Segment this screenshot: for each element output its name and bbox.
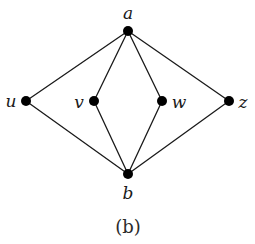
- figure-caption: (b): [115, 216, 141, 237]
- vertex-label-a: a: [123, 5, 133, 22]
- graph-figure: auvwzb (b): [0, 0, 255, 244]
- graph-vertex-a: [123, 26, 133, 36]
- vertex-label-b: b: [123, 185, 134, 202]
- graph-edge-w-b: [128, 101, 162, 174]
- graph-vertex-u: [21, 96, 31, 106]
- vertex-label-w: w: [172, 94, 187, 111]
- graph-edge-a-v: [94, 31, 128, 101]
- vertex-label-v: v: [74, 94, 84, 111]
- vertex-label-u: u: [6, 93, 17, 110]
- graph-edge-a-z: [128, 31, 229, 101]
- graph-edge-v-b: [94, 101, 128, 174]
- graph-vertex-b: [123, 169, 133, 179]
- graph-edge-a-w: [128, 31, 162, 101]
- graph-edge-z-b: [128, 101, 229, 174]
- vertex-layer: [21, 26, 234, 179]
- graph-vertex-z: [224, 96, 234, 106]
- edge-layer: [26, 31, 229, 174]
- vertex-label-z: z: [239, 94, 248, 111]
- graph-vertex-v: [89, 96, 99, 106]
- graph-vertex-w: [157, 96, 167, 106]
- graph-edge-a-u: [26, 31, 128, 101]
- graph-canvas: [0, 0, 255, 244]
- graph-edge-u-b: [26, 101, 128, 174]
